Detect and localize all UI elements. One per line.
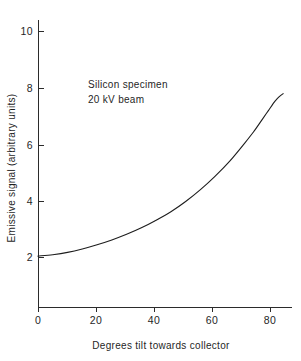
annotation-line-1: Silicon specimen [88, 79, 168, 90]
y-tick-label-2: 2 [27, 251, 33, 263]
x-tick-label-60: 60 [206, 314, 218, 326]
y-tick-label-10: 10 [21, 25, 33, 37]
y-tick-label-8: 8 [27, 82, 33, 94]
x-tick-label-20: 20 [90, 314, 102, 326]
annotation-line-2: 20 kV beam [88, 94, 144, 105]
y-tick-label-6: 6 [27, 139, 33, 151]
emissive-signal-line-chart: 10 8 6 4 2 0 20 40 60 80 Silicon specime… [0, 0, 301, 361]
y-axis-title: Emissive signal (arbitrary units) [6, 94, 17, 243]
chart-background [0, 0, 301, 361]
y-tick-label-4: 4 [27, 195, 33, 207]
x-tick-label-80: 80 [264, 314, 276, 326]
x-tick-label-40: 40 [148, 314, 160, 326]
x-axis-title: Degrees tilt towards collector [92, 340, 230, 351]
x-tick-label-0: 0 [35, 314, 41, 326]
chart-figure: 10 8 6 4 2 0 20 40 60 80 Silicon specime… [0, 0, 301, 361]
